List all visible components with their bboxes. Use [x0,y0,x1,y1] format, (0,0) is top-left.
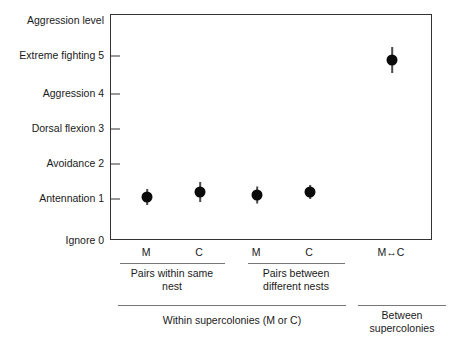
x-tick-label-1: M [142,247,151,258]
y-tick-mark-2 [111,164,120,165]
y-axis-tick-labels: Aggression level Extreme fighting 5 Aggr… [0,0,104,260]
y-tick-label-2: Avoidance 2 [46,158,104,169]
x-tick-label-4: C [305,247,313,258]
aggression-level-chart: Aggression level Extreme fighting 5 Aggr… [0,0,454,355]
group-rule-between-supercolonies [358,305,446,306]
group-rule-within-supercolonies [118,305,346,306]
y-tick-label-1: Antennation 1 [39,193,104,204]
y-tick-mark-5 [111,56,120,57]
group-label-between-supercolonies-line2: supercolonies [370,322,435,334]
y-tick-label-0: Ignore 0 [65,235,104,246]
y-tick-mark-1 [111,199,120,200]
data-point-5 [387,55,398,66]
x-tick-label-5: M↔C [378,247,405,258]
data-point-4 [305,187,316,198]
group-rule-different-nests [248,263,345,264]
group-label-different-nests-line2: different nests [263,280,329,292]
y-tick-mark-4 [111,94,120,95]
group-label-same-nest-line1: Pairs within same [131,267,213,279]
group-label-same-nest: Pairs within same nest [131,267,213,292]
y-tick-label-3: Dorsal flexion 3 [32,123,104,134]
x-tick-label-3: M [252,247,261,258]
y-tick-label-4: Aggression 4 [43,88,104,99]
y-tick-label-5: Extreme fighting 5 [19,50,104,61]
group-label-within-supercolonies: Within supercolonies (M or C) [163,314,301,327]
y-tick-mark-3 [111,129,120,130]
x-tick-label-2: C [195,247,203,258]
group-label-between-supercolonies: Between supercolonies [370,309,435,334]
data-point-1 [142,192,153,203]
group-label-between-supercolonies-line1: Between [382,309,423,321]
data-point-2 [195,187,206,198]
group-label-same-nest-line2: nest [162,280,182,292]
group-label-different-nests-line1: Pairs between [263,267,330,279]
group-label-within-supercolonies-line1: Within supercolonies (M or C) [163,314,301,326]
plot-area [110,14,432,240]
group-rule-same-nest [120,263,225,264]
data-point-3 [252,190,263,201]
y-axis-title: Aggression level [27,15,104,26]
group-label-different-nests: Pairs between different nests [263,267,330,292]
